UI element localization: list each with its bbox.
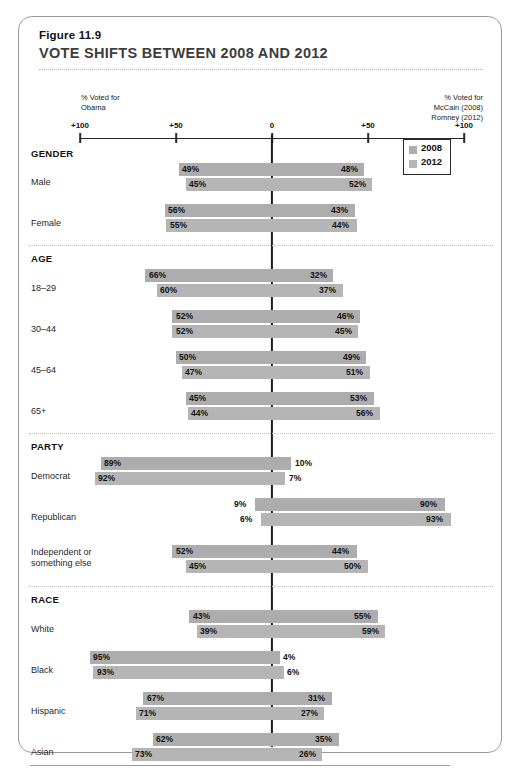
bar-value-age1-2008-right: 32% — [310, 269, 327, 282]
bar-black-2012-left — [93, 666, 272, 679]
bar-value-age4-2008-left: 45% — [189, 392, 206, 405]
bar-value-black-2008-right: 4% — [283, 651, 295, 664]
group-header-party: PARTY — [31, 441, 64, 452]
bar-rep-2012-right — [272, 513, 451, 526]
bar-hisp-2012-left — [136, 707, 272, 720]
bar-rep-2008-right — [272, 498, 445, 511]
bar-value-white-2008-left: 43% — [193, 610, 210, 623]
bar-value-dem-2008-right: 10% — [295, 457, 312, 470]
bar-value-hisp-2008-right: 31% — [308, 692, 325, 705]
group-header-gender: GENDER — [31, 148, 73, 159]
axis-tick-left-50 — [175, 133, 177, 143]
bar-value-ind-2012-left: 45% — [189, 560, 206, 573]
bar-black-2008-left — [90, 651, 272, 664]
bar-asian-2012-left — [132, 748, 272, 761]
bar-value-age3-2012-right: 51% — [346, 366, 363, 379]
bar-value-male-2008-left: 49% — [182, 163, 199, 176]
bar-value-age2-2012-left: 52% — [176, 325, 193, 338]
bar-value-ind-2008-left: 52% — [176, 545, 193, 558]
bar-value-age4-2012-left: 44% — [191, 407, 208, 420]
axis-tick-label-zero: 0 — [270, 121, 274, 130]
bar-value-rep-2012-right: 93% — [426, 513, 443, 526]
bar-value-age3-2008-left: 50% — [179, 351, 196, 364]
bar-value-dem-2012-right: 7% — [289, 472, 301, 485]
bar-value-male-2008-right: 48% — [341, 163, 358, 176]
bar-value-rep-2008-right: 90% — [420, 498, 437, 511]
axis-tick-label-left-50: +50 — [169, 121, 183, 130]
bar-black-2008-right — [272, 651, 280, 664]
row-label-democrat: Democrat — [31, 471, 70, 482]
bar-value-white-2012-right: 59% — [362, 625, 379, 638]
bar-value-black-2012-right: 6% — [287, 666, 299, 679]
row-label-female: Female — [31, 218, 61, 229]
row-label-independent-line1: Independent or — [31, 547, 92, 557]
bar-value-female-2008-left: 56% — [168, 204, 185, 217]
bar-value-ind-2008-right: 44% — [332, 545, 349, 558]
group-header-age: AGE — [31, 253, 53, 264]
page-footer-rule — [30, 765, 450, 766]
row-label-independent-line2: something else — [31, 558, 92, 568]
legend-swatch-2012 — [409, 160, 417, 168]
legend-label-2008: 2008 — [421, 142, 442, 153]
bar-value-white-2008-right: 55% — [354, 610, 371, 623]
bar-value-male-2012-right: 52% — [349, 178, 366, 191]
bar-value-age1-2008-left: 66% — [149, 269, 166, 282]
bar-value-ind-2012-right: 50% — [344, 560, 361, 573]
axis-tick-label-right-100: +100 — [455, 121, 473, 130]
bar-value-age2-2012-right: 45% — [335, 325, 352, 338]
axis-tick-label-left-100: +100 — [71, 121, 89, 130]
bar-rep-2012-left — [261, 513, 273, 526]
bar-value-age2-2008-left: 52% — [176, 310, 193, 323]
row-label-republican: Republican — [31, 512, 76, 523]
row-label-age-65-plus: 65+ — [31, 406, 46, 417]
bar-value-black-2008-left: 95% — [93, 651, 110, 664]
separator-party-race — [29, 586, 493, 587]
bar-value-hisp-2012-right: 27% — [301, 707, 318, 720]
row-label-asian: Asian — [31, 747, 54, 758]
bar-value-age4-2008-right: 53% — [350, 392, 367, 405]
row-label-age-30-44: 30–44 — [31, 324, 56, 335]
row-label-age-45-64: 45–64 — [31, 365, 56, 376]
legend-label-2012: 2012 — [421, 156, 442, 167]
axis-tick-right-50 — [367, 133, 369, 143]
bar-value-asian-2012-right: 26% — [299, 748, 316, 761]
bar-rep-2008-left — [255, 498, 272, 511]
bar-value-black-2012-left: 93% — [97, 666, 114, 679]
bar-dem-2008-right — [272, 457, 291, 470]
bar-value-female-2012-right: 44% — [332, 219, 349, 232]
bar-value-asian-2012-left: 73% — [135, 748, 152, 761]
bar-value-rep-2012-left: 6% — [240, 513, 252, 526]
bar-dem-2008-left — [101, 457, 272, 470]
bar-value-dem-2012-left: 92% — [98, 472, 115, 485]
bar-value-white-2012-left: 39% — [200, 625, 217, 638]
bar-value-age3-2012-left: 47% — [185, 366, 202, 379]
bar-value-age2-2008-right: 46% — [337, 310, 354, 323]
separator-age-party — [29, 433, 493, 434]
figure-card: Figure 11.9 VOTE SHIFTS BETWEEN 2008 AND… — [18, 16, 502, 753]
row-label-male: Male — [31, 177, 51, 188]
row-label-black: Black — [31, 665, 53, 676]
row-label-age-18-29: 18–29 — [31, 283, 56, 294]
row-label-independent: Independent or something else — [31, 547, 92, 569]
row-label-white: White — [31, 624, 54, 635]
bar-value-hisp-2008-left: 67% — [147, 692, 164, 705]
plot-area: +100 +50 0 +50 +100 2008 2012 GENDER Mal… — [19, 17, 503, 754]
bar-value-dem-2008-left: 89% — [104, 457, 121, 470]
bar-value-female-2012-left: 55% — [170, 219, 187, 232]
bar-value-age1-2012-left: 60% — [160, 284, 177, 297]
axis-tick-right-100 — [463, 133, 465, 143]
bar-value-asian-2008-right: 35% — [315, 733, 332, 746]
bar-value-male-2012-left: 45% — [189, 178, 206, 191]
row-label-hispanic: Hispanic — [31, 706, 66, 717]
bar-dem-2012-right — [272, 472, 285, 485]
bar-black-2012-right — [272, 666, 284, 679]
group-header-race: RACE — [31, 594, 59, 605]
legend: 2008 2012 — [403, 139, 451, 175]
legend-swatch-2008 — [409, 146, 417, 154]
bar-value-age3-2008-right: 49% — [343, 351, 360, 364]
bar-value-rep-2008-left: 9% — [234, 498, 246, 511]
bar-value-female-2008-right: 43% — [331, 204, 348, 217]
bar-value-age4-2012-right: 56% — [356, 407, 373, 420]
bar-value-age1-2012-right: 37% — [319, 284, 336, 297]
axis-tick-left-100 — [79, 133, 81, 143]
